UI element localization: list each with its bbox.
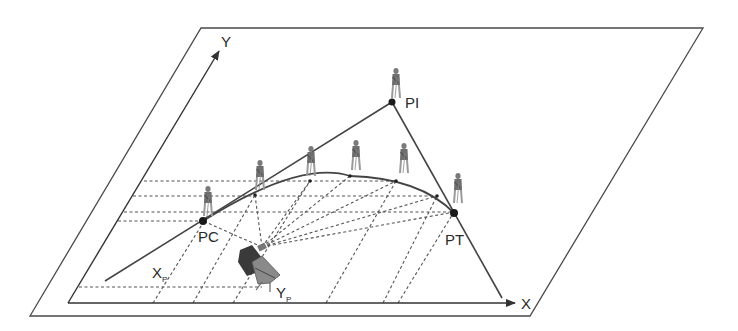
rod-person-icon [454, 173, 462, 203]
rod-person-icon [400, 143, 408, 173]
xp-label-main: X [152, 264, 162, 281]
pc-label: PC [198, 228, 219, 245]
rod-person-icon [256, 160, 264, 190]
pt-label: PT [445, 231, 464, 248]
xp-label: XP [152, 264, 167, 284]
pi-label: PI [405, 94, 419, 111]
forward-tangent [392, 102, 502, 298]
instrument-operator-icon [238, 243, 280, 292]
y-axis [68, 51, 219, 303]
y-axis-label: Y [221, 33, 231, 50]
ground-plane [30, 28, 703, 316]
pi-point [389, 99, 396, 106]
pc-point [199, 217, 207, 225]
x-axis-label: X [521, 295, 531, 312]
xp-label-sub: P [162, 275, 167, 284]
rod-person-icons [204, 68, 462, 216]
curve-layout-diagram: Y X PC PI PT XP YP [0, 0, 738, 331]
rod-person-icon [352, 140, 360, 170]
rod-person-icon [392, 68, 400, 98]
yp-label: YP [276, 284, 291, 304]
yp-label-sub: P [286, 295, 291, 304]
pt-point [450, 209, 458, 217]
yp-label-main: Y [276, 284, 286, 301]
diagram-canvas: Y X PC PI PT XP YP [0, 0, 738, 331]
